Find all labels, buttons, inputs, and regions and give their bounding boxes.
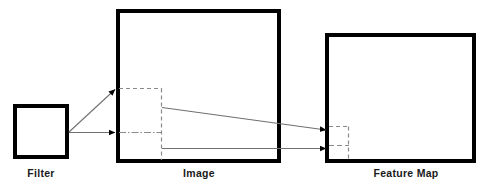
convolution-diagram: [0, 0, 485, 190]
image-box: [118, 11, 279, 161]
filter-box: [15, 106, 67, 157]
feature-map-label: Feature Map: [364, 167, 448, 179]
image-label: Image: [158, 167, 240, 179]
filter-label: Filter: [0, 167, 82, 179]
connector-filter-to-image-top: [69, 90, 115, 133]
diagram-canvas: Filter Image Feature Map: [0, 0, 485, 190]
